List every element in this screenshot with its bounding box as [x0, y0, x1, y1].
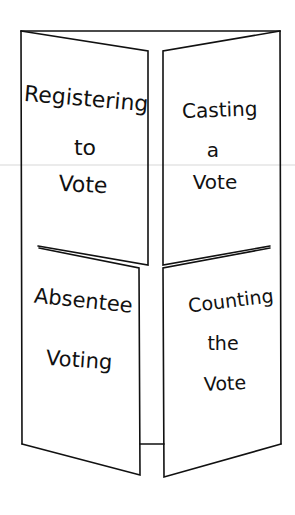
panel-upper-left-line-3: Vote [49, 172, 116, 197]
panel-lower-right-line-3: Vote [202, 373, 249, 394]
panel-lower-left-line-2: Voting [45, 348, 110, 373]
outer-left-edge [21, 31, 22, 444]
panel-upper-right-line-1: Casting [182, 99, 247, 121]
booklet-outline [0, 0, 295, 515]
lower-right-panel-edges [163, 248, 281, 477]
panel-upper-right-line-2: a [200, 140, 226, 160]
panel-upper-left-line-2: to [60, 137, 110, 159]
folded-booklet-diagram: Registering to Vote Casting a Vote Absen… [0, 0, 295, 515]
outer-right-edge [280, 31, 281, 444]
panel-upper-right-line-3: Vote [190, 172, 240, 192]
panel-lower-right-line-2: the [204, 334, 242, 353]
